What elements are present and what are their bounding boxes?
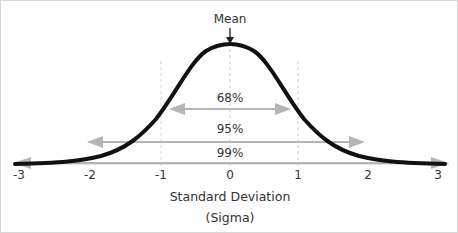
tick-3: 3 bbox=[434, 168, 442, 182]
tick-m1: -1 bbox=[155, 168, 167, 182]
mean-label: Mean bbox=[214, 12, 247, 26]
tick-m3: -3 bbox=[13, 168, 25, 182]
tick-0: 0 bbox=[226, 168, 234, 182]
x-tick-labels: -3 -2 -1 0 1 2 3 bbox=[13, 168, 442, 182]
tick-m2: -2 bbox=[84, 168, 96, 182]
x-axis-title: Standard Deviation bbox=[170, 189, 291, 204]
tick-1: 1 bbox=[294, 168, 302, 182]
normal-distribution-chart: Mean 68% 95% 99% -3 -2 -1 0 1 2 3 Standa… bbox=[1, 1, 458, 233]
chart-frame: Mean 68% 95% 99% -3 -2 -1 0 1 2 3 Standa… bbox=[0, 0, 458, 233]
label-68: 68% bbox=[217, 91, 244, 105]
label-95: 95% bbox=[217, 122, 244, 136]
tick-2: 2 bbox=[364, 168, 372, 182]
mean-arrow bbox=[226, 28, 234, 44]
label-99: 99% bbox=[217, 146, 244, 160]
x-axis-subtitle: (Sigma) bbox=[206, 210, 255, 225]
